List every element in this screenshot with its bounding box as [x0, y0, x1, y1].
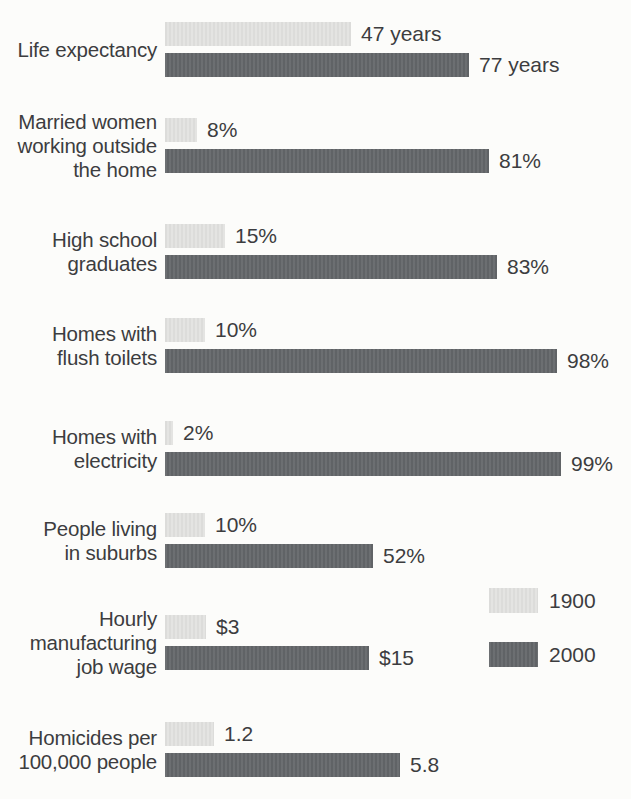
value-label-2000: 52%: [383, 544, 425, 568]
bar-2000: [165, 53, 469, 77]
bar-pair: 47 years 77 years: [165, 22, 560, 77]
bar-1900: [165, 615, 206, 639]
legend-entry-1900: 1900: [489, 588, 596, 613]
category-label: Hourly manufacturing job wage: [0, 607, 157, 679]
value-label-2000: 98%: [567, 349, 609, 373]
bar-pair: 10% 98%: [165, 318, 609, 373]
value-label-1900: 1.2: [224, 722, 253, 746]
bar-2000: [165, 646, 369, 670]
value-label-2000: 77 years: [479, 53, 560, 77]
bar-1900: [165, 513, 205, 537]
chart-row-high-school-graduates: High school graduates 15% 83%: [0, 224, 631, 279]
bar-pair: 10% 52%: [165, 513, 425, 568]
bar-pair: 8% 81%: [165, 118, 541, 173]
bar-1900: [165, 22, 351, 46]
category-label: Homes with electricity: [0, 425, 157, 473]
category-label: Life expectancy: [0, 38, 157, 62]
value-label-1900: 47 years: [361, 22, 442, 46]
value-label-1900: 15%: [235, 224, 277, 248]
bar-2000: [165, 452, 561, 476]
chart-row-life-expectancy: Life expectancy 47 years 77 years: [0, 22, 631, 77]
bar-1900: [165, 318, 205, 342]
legend: 1900 2000: [489, 588, 596, 667]
bar-2000: [165, 349, 557, 373]
bar-2000: [165, 149, 489, 173]
legend-label-1900: 1900: [549, 589, 596, 613]
value-label-1900: 2%: [183, 421, 213, 445]
chart-row-homes-flush-toilets: Homes with flush toilets 10% 98%: [0, 318, 631, 373]
bar-1900: [165, 118, 197, 142]
category-label: Homicides per 100,000 people: [0, 726, 157, 774]
bar-pair: 15% 83%: [165, 224, 549, 279]
chart-row-married-women-working: Married women working outside the home 8…: [0, 118, 631, 173]
value-label-2000: 5.8: [410, 753, 439, 777]
chart-row-people-living-suburbs: People living in suburbs 10% 52%: [0, 513, 631, 568]
chart-row-homicides-per-100000: Homicides per 100,000 people 1.2 5.8: [0, 722, 631, 777]
legend-swatch-2000: [489, 642, 538, 667]
value-label-1900: 10%: [215, 513, 257, 537]
value-label-2000: 99%: [571, 452, 613, 476]
bar-1900: [165, 722, 214, 746]
bar-2000: [165, 753, 400, 777]
bar-pair: 1.2 5.8: [165, 722, 439, 777]
legend-label-2000: 2000: [549, 643, 596, 667]
value-label-2000: 83%: [507, 255, 549, 279]
bar-2000: [165, 544, 373, 568]
value-label-1900: $3: [216, 615, 239, 639]
bar-pair: $3 $15: [165, 615, 414, 670]
category-label: People living in suburbs: [0, 517, 157, 565]
value-label-2000: 81%: [499, 149, 541, 173]
category-label: High school graduates: [0, 228, 157, 276]
chart-row-homes-electricity: Homes with electricity 2% 99%: [0, 421, 631, 476]
value-label-2000: $15: [379, 646, 414, 670]
bar-1900: [165, 224, 225, 248]
category-label: Married women working outside the home: [0, 110, 157, 182]
legend-entry-2000: 2000: [489, 642, 596, 667]
value-label-1900: 10%: [215, 318, 257, 342]
comparison-bar-chart-1900-vs-2000: Life expectancy 47 years 77 years Marrie…: [0, 0, 631, 799]
category-label: Homes with flush toilets: [0, 322, 157, 370]
bar-pair: 2% 99%: [165, 421, 613, 476]
bar-2000: [165, 255, 497, 279]
value-label-1900: 8%: [207, 118, 237, 142]
legend-swatch-1900: [489, 588, 538, 613]
bar-1900: [165, 421, 173, 445]
